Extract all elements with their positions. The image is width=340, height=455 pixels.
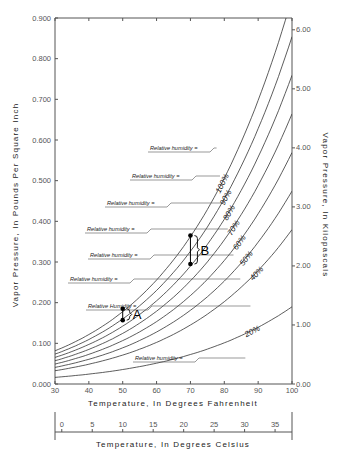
x-axis-title-fahrenheit: Temperature, In Degrees Fahrenheit [88,399,258,408]
marker-point-top-B [188,233,193,238]
x-axis-title-celsius: Temperature, In Degrees Celsius [96,440,250,449]
y-tick-label: 0.100 [32,339,51,348]
rh-percent-label: 50% [238,249,255,267]
x-tick-label: 30 [51,386,59,395]
curve-rh-20 [55,307,292,378]
y-tick-label: 0.900 [32,14,51,23]
y2-tick-label: 2.00 [296,261,311,270]
rh-label-text: Relative Humidity = [88,303,137,309]
y-tick-label: 0.700 [32,95,51,104]
y-tick-label: 0.200 [32,298,51,307]
celsius-tick-label: 0 [60,420,64,429]
y2-tick-label: 3.00 [296,202,311,211]
rh-percent-label: 40% [248,265,266,283]
x-tick-label: 60 [152,386,160,395]
marker-point-bottom-B [188,262,193,267]
marker-point-bottom-A [120,318,125,323]
rh-label-text: Relative humidity = [135,355,183,361]
y2-tick-label: 5.00 [296,84,311,93]
x-tick-label: 40 [85,386,93,395]
curve-rh-40 [55,230,292,371]
rh-label-text: Relative humidity = [132,173,180,179]
y2-tick-label: 4.00 [296,143,311,152]
y-tick-label: 0.500 [32,176,51,185]
y-tick-label: 0.400 [32,217,51,226]
rh-label-text: Relative humidity = [150,145,198,151]
celsius-tick-label: 30 [240,420,248,429]
rh-leader-slash [150,255,154,259]
celsius-tick-label: 5 [90,420,94,429]
celsius-tick-label: 15 [149,420,157,429]
y-axis-title-psi: Vapor Pressure, In Pounds Per Square Inc… [11,103,20,308]
marker-point-top-A [120,306,125,311]
rh-leader-slash [210,148,214,152]
celsius-tick-label: 35 [271,420,279,429]
rh-percent-label: 20% [242,324,261,340]
rh-leader-slash [130,279,134,283]
y2-tick-label: 1.00 [296,320,311,329]
x-tick-label: 90 [254,386,262,395]
y-tick-label: 0.800 [32,54,51,63]
rh-leader-slash [167,203,171,207]
x-tick-label: 80 [220,386,228,395]
y-tick-label: 0.600 [32,136,51,145]
rh-percent-label: 60% [231,234,248,252]
rh-leader-slash [195,358,199,362]
celsius-tick-label: 20 [179,420,187,429]
y2-tick-label: 6.00 [296,25,311,34]
x-tick-label: 50 [119,386,127,395]
rh-leader-slash [147,229,151,233]
x-tick-label: 70 [186,386,194,395]
annotation-markers: AB [120,233,209,322]
vapor-pressure-chart: 0.0000.1000.2000.3000.4000.5000.6000.700… [0,0,340,455]
rh-leader-slash [192,176,196,180]
humidity-curves [55,0,292,377]
celsius-tick-label: 10 [119,420,127,429]
y-axis-title-kpa: Vapor Pressure, In Kilopascals [321,133,330,278]
rh-label-text: Relative humidity = [107,200,155,206]
y-tick-label: 0.000 [32,380,51,389]
marker-label-A: A [133,307,142,322]
y-tick-label: 0.300 [32,258,51,267]
marker-label-B: B [200,243,209,258]
x-tick-label: 100 [286,386,299,395]
rh-label-text: Relative humidity = [87,226,135,232]
rh-label-text: Relative humidity = [70,276,118,282]
celsius-tick-label: 25 [210,420,218,429]
rh-label-text: Relative humidity = [90,252,138,258]
